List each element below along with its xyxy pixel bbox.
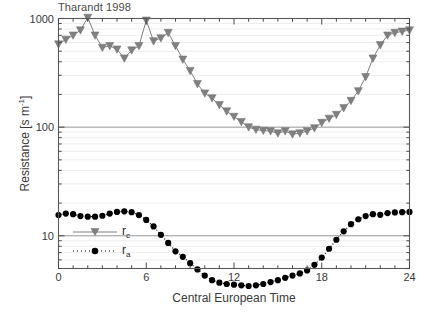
series-marker-ra [165, 240, 171, 246]
legend-swatch-rc [72, 225, 118, 239]
series-marker-ra [70, 211, 76, 217]
legend-item-ra[interactable]: ra [72, 243, 130, 259]
series-marker-ra [246, 283, 252, 289]
series-marker-ra [238, 282, 244, 288]
series-marker-ra [333, 237, 339, 243]
series-marker-ra [399, 209, 405, 215]
legend-label-subscript: a [126, 250, 130, 259]
series-marker-ra [202, 273, 208, 279]
series-marker-ra [224, 281, 230, 287]
series-marker-ra [319, 254, 325, 260]
series-marker-ra [297, 270, 303, 276]
series-marker-ra [363, 213, 369, 219]
plot-area [0, 0, 426, 313]
legend-marker-ra [92, 248, 99, 255]
series-marker-ra [326, 246, 332, 252]
series-marker-ra [121, 208, 127, 214]
series-marker-ra [194, 266, 200, 272]
series-marker-ra [99, 213, 105, 219]
series-marker-ra [92, 214, 98, 220]
series-marker-ra [289, 273, 295, 279]
series-marker-ra [150, 223, 156, 229]
series-marker-ra [209, 277, 215, 283]
series-marker-ra [216, 280, 222, 286]
series-marker-ra [370, 211, 376, 217]
series-marker-ra [107, 211, 113, 217]
series-marker-ra [77, 213, 83, 219]
series-marker-ra [282, 275, 288, 281]
series-marker-ra [180, 254, 186, 260]
legend-item-rc[interactable]: rc [72, 224, 130, 240]
series-marker-ra [231, 282, 237, 288]
series-marker-ra [311, 262, 317, 268]
series-marker-ra [384, 210, 390, 216]
series-marker-ra [253, 282, 259, 288]
series-marker-ra [136, 212, 142, 218]
series-marker-ra [377, 212, 383, 218]
series-marker-ra [172, 248, 178, 254]
legend-label-ra: ra [122, 243, 130, 259]
series-marker-ra [114, 209, 120, 215]
series-marker-ra [158, 232, 164, 238]
series-marker-ra [63, 211, 69, 217]
legend-label-rc: rc [122, 224, 130, 240]
series-marker-ra [392, 209, 398, 215]
series-marker-ra [143, 217, 149, 223]
series-marker-ra [341, 228, 347, 234]
series-marker-ra [85, 214, 91, 220]
series-marker-ra [129, 209, 135, 215]
series-marker-ra [355, 216, 361, 222]
series-marker-ra [275, 277, 281, 283]
series-marker-ra [348, 221, 354, 227]
legend-label-subscript: c [126, 231, 130, 240]
series-marker-ra [260, 281, 266, 287]
series-marker-ra [267, 279, 273, 285]
chart-figure: Tharandt 1998 Resistance [s m-1] Central… [0, 0, 426, 313]
legend-swatch-ra [72, 244, 118, 258]
